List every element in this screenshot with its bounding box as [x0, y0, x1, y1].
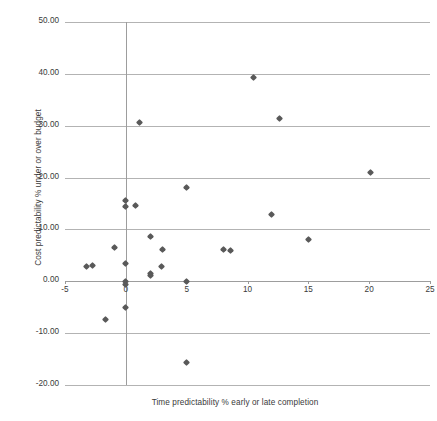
data-point	[89, 262, 96, 269]
gridline	[65, 74, 430, 75]
data-point	[147, 233, 154, 240]
data-point	[183, 278, 190, 285]
gridline	[65, 22, 430, 23]
data-point	[132, 202, 139, 209]
x-axis-tick-label: -5	[45, 285, 85, 294]
plot-area: 50.0040.0030.0020.0010.000.00-10.00-20.0…	[65, 22, 430, 385]
data-point	[250, 74, 257, 81]
data-point	[183, 184, 190, 191]
gridline	[65, 229, 430, 230]
y-axis-tick-label: -10.00	[15, 327, 59, 336]
x-axis-tick-mark	[65, 281, 66, 284]
gridline	[65, 385, 430, 386]
x-axis-tick-mark	[369, 281, 370, 284]
data-point	[122, 203, 129, 210]
x-axis-tick-mark	[308, 281, 309, 284]
x-axis-tick-label: 10	[228, 285, 268, 294]
data-point	[227, 247, 234, 254]
y-axis-tick-label: 40.00	[15, 68, 59, 77]
x-axis-tick-label: 5	[167, 285, 207, 294]
data-point	[305, 236, 312, 243]
y-axis-tick-label: 50.00	[15, 16, 59, 25]
data-point	[276, 115, 283, 122]
data-point	[158, 263, 165, 270]
y-axis-tick-label: 10.00	[15, 223, 59, 232]
data-point	[102, 316, 109, 323]
y-axis-tick-label: 0.00	[15, 275, 59, 284]
data-point	[268, 211, 275, 218]
data-point	[122, 304, 129, 311]
data-point	[122, 260, 129, 267]
x-axis-title: Time predictability % early or late comp…	[60, 398, 410, 407]
x-axis-tick-label: 15	[288, 285, 328, 294]
data-point	[111, 244, 118, 251]
scatter-chart: Cost predictability % under or over budg…	[0, 0, 437, 421]
gridline	[65, 178, 430, 179]
x-axis-tick-label: 20	[349, 285, 389, 294]
y-axis-tick-label: -20.00	[15, 379, 59, 388]
y-axis-tick-label: 30.00	[15, 120, 59, 129]
data-point	[220, 246, 227, 253]
data-point	[183, 359, 190, 366]
x-axis-tick-mark	[248, 281, 249, 284]
data-point	[159, 246, 166, 253]
gridline	[65, 333, 430, 334]
gridline	[65, 126, 430, 127]
x-axis-tick-mark	[430, 281, 431, 284]
data-point	[367, 169, 374, 176]
y-axis-tick-label: 20.00	[15, 172, 59, 181]
data-point	[147, 272, 154, 279]
x-axis-tick-label: 25	[410, 285, 437, 294]
